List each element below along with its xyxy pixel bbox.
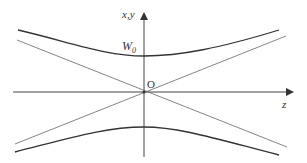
upper-beam-envelope	[18, 30, 279, 56]
waist-label-subscript: 0	[132, 46, 136, 55]
horizontal-axis-label: z	[281, 98, 287, 110]
lower-beam-envelope	[15, 127, 279, 155]
origin-point	[143, 91, 146, 94]
waist-label: W0	[122, 39, 136, 55]
origin-label: O	[147, 78, 155, 90]
asymptote-line-ascending	[15, 36, 286, 144]
gaussian-beam-diagram: x,y W0 O z	[0, 0, 307, 163]
vertical-axis-label: x,y	[121, 8, 135, 20]
